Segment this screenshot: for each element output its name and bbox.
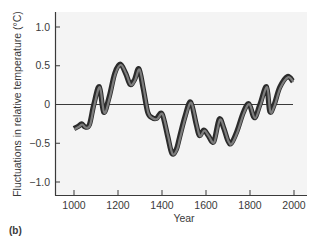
panel-label: (b) (9, 225, 22, 236)
x-tick-label: 1200 (106, 199, 130, 211)
y-axis-title: Fluctuations in relative temperature (°C… (11, 11, 23, 197)
x-tick-label: 2000 (282, 199, 306, 211)
x-tick-label: 1000 (62, 199, 86, 211)
temperature-chart: 1.00.50−0.5−1.0 100012001400160018002000… (0, 0, 323, 249)
y-tick-label: 1.0 (35, 21, 50, 33)
x-tick-label: 1800 (238, 199, 262, 211)
x-axis-title: Year (173, 212, 195, 224)
y-tick-label: −1.0 (29, 176, 50, 188)
y-tick-label: 0.5 (35, 59, 50, 71)
x-tick-label: 1400 (150, 199, 174, 211)
y-tick-label: 0 (44, 98, 50, 110)
x-tick-label: 1600 (194, 199, 218, 211)
y-tick-label: −0.5 (29, 137, 50, 149)
